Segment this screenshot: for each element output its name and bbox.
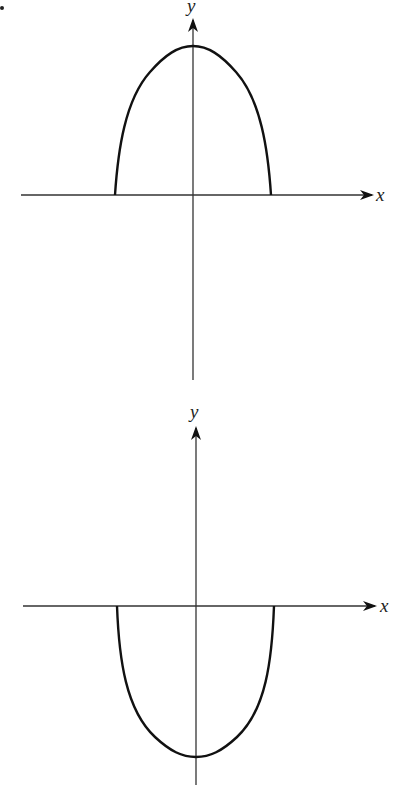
top-panel: x y [21, 0, 385, 380]
bottom-x-label: x [379, 595, 389, 616]
figure-canvas: x y x y [0, 0, 408, 785]
bottom-panel: x y [23, 401, 389, 785]
top-y-label: y [185, 0, 196, 16]
top-x-label: x [375, 184, 385, 205]
bullet-marker [0, 6, 4, 10]
bottom-y-label: y [188, 401, 199, 422]
